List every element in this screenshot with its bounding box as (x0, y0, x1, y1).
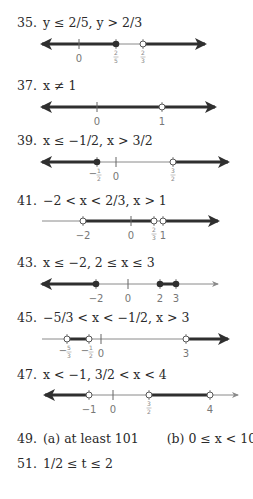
minus-sign: − (81, 345, 89, 356)
fraction-numerator: 3 (147, 400, 151, 407)
closed-point (94, 159, 101, 166)
fraction-denominator: 5 (114, 57, 118, 64)
problem-answer: y ≤ 2/5, y > 2/3 (43, 15, 142, 30)
fraction-denominator: 2 (171, 175, 175, 182)
problem-number: 49. (17, 431, 39, 446)
tick-label: 4 (207, 404, 213, 415)
problem-51: 51. 1/2 ≤ t ≤ 2 (17, 456, 113, 471)
tick-label: −2 (89, 293, 104, 304)
problem-number: 51. (17, 456, 39, 471)
open-point (146, 392, 152, 398)
fraction-numerator: 2 (141, 49, 145, 56)
fraction-numerator: 2 (114, 49, 118, 56)
tick-label: −2 (76, 230, 91, 241)
problem-37: 37. x ≠ 1 (17, 78, 76, 93)
fraction-denominator: 2 (147, 408, 151, 415)
problem-number: 45. (17, 310, 39, 325)
tick-label: −1 (82, 404, 97, 415)
closed-point (157, 281, 164, 288)
closed-point (93, 281, 100, 288)
closed-point (113, 41, 120, 48)
problem-answer: 1/2 ≤ t ≤ 2 (43, 456, 113, 471)
problem-answer: x ≤ −1/2, x > 3/2 (43, 133, 153, 148)
problem-49: 49. (a) at least 101 (b) 0 ≤ x < 100 (17, 431, 253, 446)
problem-answer: −2 < x < 2/3, x > 1 (43, 193, 167, 208)
tick-label: 0 (98, 348, 104, 359)
fraction-denominator: 2 (97, 175, 101, 182)
closed-point (173, 281, 180, 288)
number-line: 0−53−123 (0, 325, 253, 365)
problem-35: 35. y ≤ 2/5, y > 2/3 (17, 15, 142, 30)
answer-part-a: (a) at least 101 (43, 431, 139, 446)
problem-answer: x ≤ −2, 2 ≤ x ≤ 3 (43, 255, 155, 270)
minus-sign: − (59, 345, 67, 356)
problem-number: 37. (17, 78, 39, 93)
problem-39: 39. x ≤ −1/2, x > 3/2 (17, 133, 153, 148)
number-line: 01 (0, 93, 253, 133)
fraction-denominator: 3 (141, 57, 145, 64)
tick-label: 0 (110, 404, 116, 415)
tick-label: 3 (183, 348, 189, 359)
number-line: 0−223 (0, 270, 253, 310)
fraction-numerator: 1 (89, 344, 93, 351)
open-point (183, 336, 189, 342)
open-point (151, 218, 157, 224)
fraction-numerator: 3 (171, 167, 175, 174)
problem-number: 41. (17, 193, 39, 208)
tick-label: 0 (76, 53, 82, 64)
number-line: 0−1232 (0, 148, 253, 188)
open-point (140, 41, 146, 47)
tick-label: 1 (159, 116, 165, 127)
fraction-denominator: 3 (67, 352, 71, 359)
answer-part-b: (b) 0 ≤ x < 100 (167, 431, 253, 446)
problem-47: 47. x < −1, 3/2 < x < 4 (17, 367, 167, 382)
fraction-denominator: 2 (89, 352, 93, 359)
problem-number: 47. (17, 367, 39, 382)
problem-number: 39. (17, 133, 39, 148)
tick-label: 1 (160, 230, 166, 241)
problem-45: 45. −5/3 < x < −1/2, x > 3 (17, 310, 189, 325)
problem-43: 43. x ≤ −2, 2 ≤ x ≤ 3 (17, 255, 155, 270)
tick-label: 2 (157, 293, 163, 304)
fraction-numerator: 5 (67, 344, 71, 351)
open-point (64, 336, 70, 342)
fraction-numerator: 1 (97, 167, 101, 174)
number-line: 0−1324 (0, 381, 253, 421)
minus-sign: − (89, 168, 97, 179)
tick-label: 0 (94, 116, 100, 127)
open-point (159, 104, 165, 110)
problem-answer: −5/3 < x < −1/2, x > 3 (43, 310, 189, 325)
tick-label: 0 (128, 230, 134, 241)
tick-label: 0 (125, 293, 131, 304)
problem-41: 41. −2 < x < 2/3, x > 1 (17, 193, 167, 208)
open-point (207, 392, 213, 398)
problem-answer: x ≠ 1 (43, 78, 76, 93)
tick-label: 3 (173, 293, 179, 304)
problem-number: 35. (17, 15, 39, 30)
fraction-numerator: 2 (152, 226, 156, 233)
problem-number: 43. (17, 255, 39, 270)
open-point (160, 218, 166, 224)
problem-answer: x < −1, 3/2 < x < 4 (43, 367, 167, 382)
number-line: 02523 (0, 30, 253, 70)
open-point (86, 392, 92, 398)
number-line: 0−2231 (0, 207, 253, 247)
open-point (86, 336, 92, 342)
fraction-denominator: 3 (152, 234, 156, 241)
open-point (80, 218, 86, 224)
tick-label: 0 (113, 171, 119, 182)
open-point (170, 159, 176, 165)
